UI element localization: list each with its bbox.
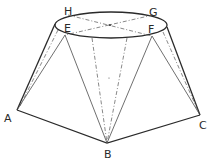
label-f: F bbox=[148, 23, 154, 36]
label-b: B bbox=[104, 148, 112, 161]
cone-construction-diagram: H G E F A B C bbox=[0, 0, 213, 167]
edge-left-dash bbox=[19, 30, 58, 108]
edge-right-dash bbox=[163, 32, 199, 113]
label-e: E bbox=[64, 22, 71, 35]
edge-left-outer bbox=[17, 24, 55, 110]
edge-f-b bbox=[107, 36, 152, 143]
ellipse-center-point bbox=[109, 24, 111, 26]
label-h: H bbox=[64, 5, 72, 18]
edge-dash-right-b bbox=[107, 38, 127, 143]
edge-right-outer bbox=[167, 27, 200, 115]
label-c: C bbox=[199, 119, 207, 132]
inner-point bbox=[108, 77, 109, 78]
label-g: G bbox=[149, 6, 158, 19]
edge-f-c bbox=[152, 36, 200, 115]
base-edges bbox=[17, 110, 200, 143]
edge-e-b bbox=[65, 35, 107, 143]
edge-dash-left-b bbox=[92, 38, 107, 143]
edge-a-e bbox=[17, 35, 65, 110]
label-a: A bbox=[4, 112, 12, 125]
